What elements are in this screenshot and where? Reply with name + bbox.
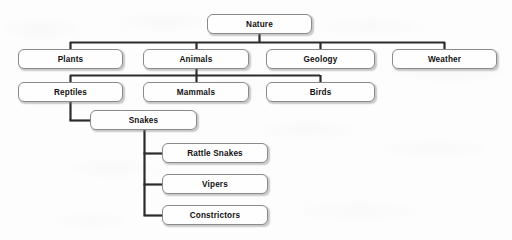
node-label: Plants <box>58 55 83 64</box>
node-nature[interactable]: Nature <box>207 14 312 34</box>
node-reptiles[interactable]: Reptiles <box>18 82 123 102</box>
node-label: Reptiles <box>54 88 87 97</box>
node-weather[interactable]: Weather <box>392 49 497 69</box>
node-birds[interactable]: Birds <box>266 82 375 102</box>
diagram-canvas: Nature Plants Animals Geology Weather Re… <box>0 0 512 240</box>
node-snakes[interactable]: Snakes <box>90 110 197 130</box>
node-label: Vipers <box>202 180 228 189</box>
node-label: Birds <box>310 88 332 97</box>
node-label: Animals <box>180 55 213 64</box>
node-label: Mammals <box>177 88 215 97</box>
node-geology[interactable]: Geology <box>266 49 375 69</box>
node-label: Rattle Snakes <box>187 149 243 158</box>
node-label: Nature <box>246 20 273 29</box>
connector-lines <box>0 0 512 240</box>
node-constrictors[interactable]: Constrictors <box>162 205 268 225</box>
node-animals[interactable]: Animals <box>143 49 249 69</box>
node-rattle-snakes[interactable]: Rattle Snakes <box>162 143 268 163</box>
node-label: Constrictors <box>190 211 240 220</box>
node-vipers[interactable]: Vipers <box>162 174 268 194</box>
node-label: Weather <box>428 55 461 64</box>
node-mammals[interactable]: Mammals <box>143 82 249 102</box>
node-plants[interactable]: Plants <box>18 49 123 69</box>
node-label: Geology <box>304 55 338 64</box>
node-label: Snakes <box>129 116 159 125</box>
